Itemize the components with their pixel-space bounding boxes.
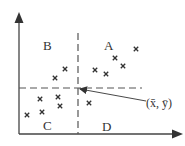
quadrant-labels: ABCD (43, 38, 114, 134)
axes (15, 12, 184, 139)
cross-marker-icon (25, 113, 29, 117)
x-axis-arrow-icon (172, 130, 183, 139)
cross-marker-icon (56, 95, 60, 99)
scatter-quadrant-diagram: ABCD (x̄, ȳ) (0, 0, 185, 146)
cross-marker-icon (134, 47, 138, 51)
cross-marker-icon (93, 68, 97, 72)
quadrant-label-a: A (104, 38, 114, 53)
data-points (25, 47, 138, 117)
cross-marker-icon (38, 97, 42, 101)
cross-marker-icon (113, 56, 117, 60)
cross-marker-icon (121, 64, 125, 68)
cross-marker-icon (63, 67, 67, 71)
mean-dashed-lines (19, 33, 142, 134)
cross-marker-icon (87, 101, 91, 105)
quadrant-label-b: B (43, 38, 52, 53)
y-axis-arrow-icon (15, 12, 24, 23)
mean-pointer: (x̄, ȳ) (80, 89, 172, 110)
quadrant-label-c: C (43, 118, 52, 133)
cross-marker-icon (40, 110, 44, 114)
mean-point-label: (x̄, ȳ) (146, 96, 172, 110)
cross-marker-icon (58, 104, 62, 108)
cross-marker-icon (53, 76, 57, 80)
quadrant-label-d: D (102, 119, 111, 134)
cross-marker-icon (104, 72, 108, 76)
pointer-arrow-icon (80, 89, 146, 101)
